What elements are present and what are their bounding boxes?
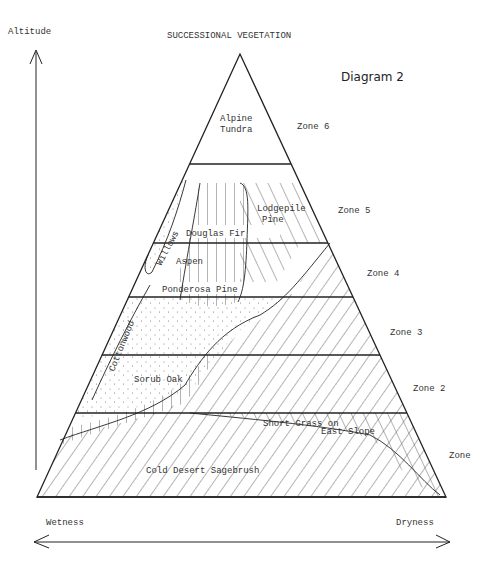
ponderosa-label: Ponderosa Pine xyxy=(162,285,238,295)
successional-vegetation-diagram: Altitude Wetness Dryness SUCCESSIONAL VE… xyxy=(0,0,494,580)
moisture-axis xyxy=(34,535,450,548)
tundra-label: Tundra xyxy=(220,125,253,135)
aspen-label: Aspen xyxy=(176,257,203,267)
zone-5-label: Zone 5 xyxy=(338,206,370,216)
pine-label: Pine xyxy=(262,215,284,225)
lodgepole-label: Lodgepile xyxy=(257,204,306,214)
wetness-label: Wetness xyxy=(46,518,84,528)
zone-1-label: Zone xyxy=(449,451,471,461)
zone-6-label: Zone 6 xyxy=(297,122,329,132)
sagebrush-label: Cold Desert Sagebrush xyxy=(146,466,259,476)
altitude-axis xyxy=(30,50,42,470)
zone-3-label: Zone 3 xyxy=(390,328,422,338)
alpine-label: Alpine xyxy=(220,114,252,124)
douglas-fir-label: Douglas Fir xyxy=(186,229,245,239)
zone-2-label: Zone 2 xyxy=(413,384,445,394)
dryness-label: Dryness xyxy=(396,518,434,528)
diagram-number-label: Diagram 2 xyxy=(341,70,404,84)
zone-4-label: Zone 4 xyxy=(367,269,399,279)
diagram-title: SUCCESSIONAL VEGETATION xyxy=(167,31,291,41)
east-slope-label: East Slope xyxy=(321,427,375,437)
altitude-label: Altitude xyxy=(8,27,51,37)
scrub-oak-label: Sorub Oak xyxy=(134,375,183,385)
